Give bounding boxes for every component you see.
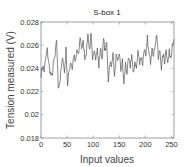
y-tick-label: 0.022 [20,87,39,96]
x-tick-label: 100 [87,140,100,149]
chart-figure: S-box 1 0.0180.020.0220.0240.0260.028 05… [0,0,188,167]
y-tick-label: 0.02 [24,110,39,119]
y-tick-label: 0.026 [20,41,39,50]
x-tick-label: 50 [63,140,71,149]
x-tick-label: 200 [139,140,152,149]
plot-frame [41,22,174,138]
y-tick-label: 0.018 [20,134,39,143]
y-tick-label: 0.028 [20,18,39,27]
plot-area: 0.0180.020.0220.0240.0260.028 0501001502… [20,18,177,149]
y-tick-label: 0.024 [20,64,39,73]
x-tick-label: 150 [113,140,126,149]
y-axis-label: Tension measured (V) [5,31,16,129]
chart-title: S-box 1 [93,8,121,17]
x-axis-label: Input values [80,154,134,165]
x-tick-label: 0 [39,140,43,149]
x-tick-label: 250 [165,140,178,149]
